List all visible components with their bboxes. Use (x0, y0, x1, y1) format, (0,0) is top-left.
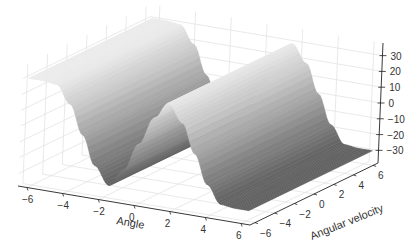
y-tick (294, 204, 297, 205)
y-tick-label: 4 (358, 180, 364, 191)
z-tick-label: 30 (390, 51, 402, 62)
x-tick-label: −6 (22, 194, 34, 205)
z-tick-label: 20 (390, 66, 402, 77)
y-tick (314, 194, 317, 195)
z-tick-label: −20 (387, 130, 404, 141)
y-tick (373, 165, 376, 166)
x-tick-label: 6 (236, 230, 242, 241)
z-tick-label: 10 (389, 82, 401, 93)
x-axis-label: Angle (116, 214, 146, 231)
surface-plot: −6−4−20246−6−4−202463020100−10−20−30 Ang… (0, 0, 419, 249)
x-tick-label: 2 (165, 218, 171, 229)
y-tick-label: 6 (378, 170, 384, 181)
y-tick (255, 223, 258, 224)
y-tick (353, 175, 356, 176)
z-tick-label: 0 (389, 98, 395, 109)
x-tick-label: −2 (93, 206, 105, 217)
y-tick-label: 0 (319, 199, 325, 210)
y-tick-label: −6 (260, 228, 272, 239)
y-tick (275, 213, 278, 214)
x-tick-label: 4 (200, 224, 206, 235)
y-tick-label: 2 (339, 189, 345, 200)
y-tick-label: −2 (299, 209, 311, 220)
x-tick-label: −4 (58, 200, 70, 211)
z-tick-label: −30 (387, 145, 404, 156)
z-tick-label: −10 (388, 114, 405, 125)
y-tick-label: −4 (280, 218, 292, 229)
y-tick (334, 184, 337, 185)
